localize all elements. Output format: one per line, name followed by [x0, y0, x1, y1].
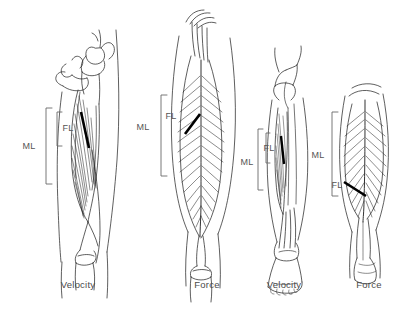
- panel-2-caption: Force: [194, 279, 219, 290]
- panel-1-artwork: [56, 30, 119, 298]
- panel-3-fl-label: FL: [264, 143, 275, 153]
- panel-3-artwork: [267, 46, 308, 295]
- panel-4-fl-label: FL: [332, 180, 343, 190]
- panel-1-fl-label: FL: [63, 123, 74, 133]
- panel-1-ml-label: ML: [23, 141, 36, 151]
- panel-1-ml-bracket: [46, 108, 52, 184]
- panel-2-artwork: [171, 10, 235, 302]
- panel-1-caption: Velocity: [61, 279, 95, 290]
- panel-3-caption: Velocity: [267, 279, 301, 290]
- panel-2-ml-bracket: [161, 95, 167, 176]
- panel-2-ml-label: ML: [137, 122, 150, 132]
- panel-4-caption: Force: [356, 279, 381, 290]
- muscle-architecture-figure: FL ML Velocity FL ML Force FL ML Velocit…: [0, 0, 407, 312]
- panel-2-fl-label: FL: [166, 111, 177, 121]
- panel-4-ml-label: ML: [312, 150, 325, 160]
- panel-3-ml-label: ML: [241, 157, 254, 167]
- anatomy-line-art: [0, 0, 407, 312]
- panel-3-ml-bracket: [258, 129, 263, 190]
- panel-4-artwork: [340, 84, 389, 284]
